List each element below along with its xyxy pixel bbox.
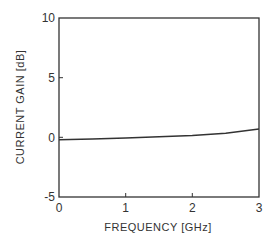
y-tick-label: -5 <box>44 190 55 204</box>
x-tick-label: 3 <box>256 201 263 215</box>
plot-frame <box>59 18 259 197</box>
gain-curve <box>59 129 259 140</box>
y-axis-label: CURRENT GAIN [dB] <box>14 50 26 165</box>
y-tick-label: 5 <box>48 71 55 85</box>
x-tick-label: 0 <box>56 201 63 215</box>
x-axis-label: FREQUENCY [GHz] <box>104 221 212 233</box>
y-tick-label: 0 <box>48 131 55 145</box>
x-tick-label: 2 <box>189 201 196 215</box>
chart: 10 5 0 -5 0 1 2 3 FREQUENCY [GHz] CURREN… <box>0 0 274 246</box>
x-tick-label: 1 <box>122 201 129 215</box>
y-tick-label: 10 <box>42 11 56 25</box>
